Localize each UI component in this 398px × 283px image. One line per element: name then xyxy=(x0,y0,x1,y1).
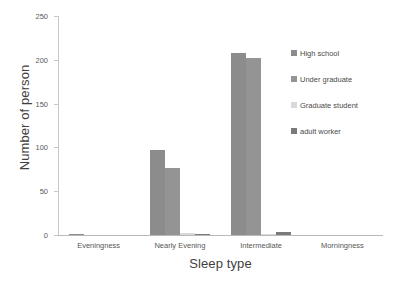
bar-group xyxy=(231,16,291,235)
y-axis-tick-label: 250 xyxy=(35,12,48,21)
y-axis-tick-label: 0 xyxy=(44,231,48,240)
legend-item-label: adult worker xyxy=(300,127,341,136)
bar-group xyxy=(69,16,129,235)
legend-swatch-icon xyxy=(291,102,297,108)
bar-chart: Number of person 050100150200250 Evening… xyxy=(0,0,398,283)
legend-item-label: High school xyxy=(300,49,339,58)
x-axis-tick-label: Intermediate xyxy=(240,241,282,250)
bar xyxy=(261,234,276,235)
bar xyxy=(165,168,180,235)
x-axis-tick-label: Eveningness xyxy=(77,241,120,250)
bar-group xyxy=(150,16,210,235)
legend-swatch-icon xyxy=(291,76,297,82)
legend: High schoolUnder graduateGraduate studen… xyxy=(291,40,396,144)
y-axis-tick: 0 xyxy=(54,235,58,236)
bar xyxy=(69,234,84,235)
y-axis-tick: 250 xyxy=(54,16,58,17)
y-axis-title: Number of person xyxy=(17,38,32,198)
x-axis-tick-label: Nearly Evening xyxy=(154,241,205,250)
legend-item: Graduate student xyxy=(291,92,396,118)
y-axis-tick-label: 100 xyxy=(35,143,48,152)
y-axis-tick-label: 200 xyxy=(35,55,48,64)
y-axis-tick: 100 xyxy=(54,147,58,148)
x-axis-line xyxy=(58,235,383,236)
bar xyxy=(246,58,261,235)
y-axis-tick-label: 150 xyxy=(35,99,48,108)
bar xyxy=(276,232,291,235)
bar xyxy=(150,150,165,235)
y-axis-tick: 200 xyxy=(54,60,58,61)
legend-item: adult worker xyxy=(291,118,396,144)
bar xyxy=(231,53,246,235)
legend-item: High school xyxy=(291,40,396,66)
legend-item-label: Under graduate xyxy=(300,75,352,84)
legend-item-label: Graduate student xyxy=(300,101,358,110)
x-axis-tick-label: Morningness xyxy=(321,241,364,250)
legend-swatch-icon xyxy=(291,50,297,56)
bar xyxy=(195,234,210,235)
x-axis-title: Sleep type xyxy=(58,256,383,271)
y-axis-tick: 50 xyxy=(54,191,58,192)
y-axis-tick-label: 50 xyxy=(40,187,48,196)
legend-item: Under graduate xyxy=(291,66,396,92)
y-axis-line xyxy=(58,16,59,236)
legend-swatch-icon xyxy=(291,128,297,134)
bar xyxy=(180,233,195,235)
y-axis-tick: 150 xyxy=(54,104,58,105)
